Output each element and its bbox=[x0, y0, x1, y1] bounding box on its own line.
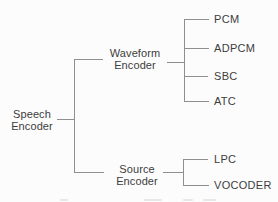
root-node-label-line2: Encoder bbox=[6, 120, 58, 132]
cropped-caption-artifact bbox=[183, 199, 193, 201]
cropped-caption-artifact bbox=[203, 199, 216, 201]
node-waveform-encoder: Waveform Encoder bbox=[104, 47, 166, 71]
branch-line-to-lpc bbox=[183, 159, 208, 160]
leaf-label-sbc: SBC bbox=[214, 71, 238, 82]
source-encoder-connector-line bbox=[163, 172, 183, 173]
branch-line-to-source-encoder bbox=[74, 172, 104, 173]
branch-line-to-pcm bbox=[184, 19, 209, 20]
root-connector-line bbox=[57, 119, 74, 120]
waveform-encoder-connector-line bbox=[167, 62, 185, 63]
branch-line-to-sbc bbox=[184, 76, 208, 77]
branch-line-to-adpcm bbox=[184, 48, 209, 49]
source-encoder-label-line2: Encoder bbox=[110, 175, 164, 187]
leaf-label-pcm: PCM bbox=[214, 14, 239, 25]
node-source-encoder: Source Encoder bbox=[110, 163, 164, 187]
leaf-label-adpcm: ADPCM bbox=[214, 43, 255, 54]
branch-line-to-atc bbox=[184, 101, 209, 102]
cropped-caption-artifact bbox=[144, 199, 162, 201]
branch-line-to-vocoder bbox=[183, 185, 209, 186]
source-bracket-vertical-line bbox=[183, 159, 184, 186]
leaf-label-vocoder: VOCODER bbox=[214, 180, 272, 191]
main-bracket-vertical-line bbox=[74, 59, 75, 173]
source-encoder-label-line1: Source bbox=[110, 163, 164, 175]
leaf-label-lpc: LPC bbox=[214, 154, 236, 165]
cropped-caption-artifact bbox=[60, 199, 68, 201]
root-node-label-line1: Speech bbox=[6, 108, 58, 120]
branch-line-to-waveform-encoder bbox=[74, 59, 103, 60]
waveform-bracket-vertical-line bbox=[184, 19, 185, 102]
waveform-encoder-label-line2: Encoder bbox=[104, 59, 166, 71]
speech-encoder-tree-diagram: Speech Encoder Waveform Encoder PCM ADPC… bbox=[0, 0, 278, 202]
waveform-encoder-label-line1: Waveform bbox=[104, 47, 166, 59]
leaf-label-atc: ATC bbox=[214, 96, 236, 107]
root-node-speech-encoder: Speech Encoder bbox=[6, 108, 58, 132]
